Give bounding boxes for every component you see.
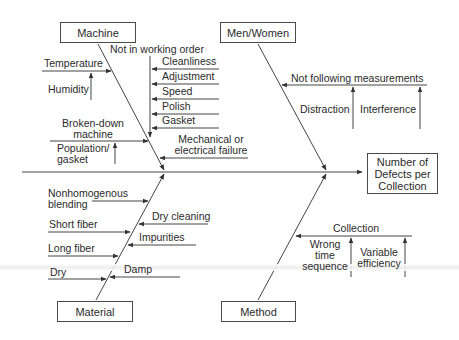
cause-nonhomogenous-blending: Nonhomogenous blending xyxy=(48,188,128,210)
cause-impurities: Impurities xyxy=(139,232,185,243)
cause-variable-efficiency: Variable efficiency xyxy=(355,247,403,269)
cause-dry-cleaning: Dry cleaning xyxy=(152,211,210,222)
cause-dry: Dry xyxy=(50,267,66,278)
effect-line-2: Defects per xyxy=(374,168,430,180)
category-men-women-box: Men/Women xyxy=(220,22,296,43)
cause-wrong-time-sequence: Wrong time sequence xyxy=(302,239,348,272)
cause-not-in-working-order: Not in working order xyxy=(110,44,204,55)
category-method-box: Method xyxy=(221,301,296,322)
cause-wrong-line-3: sequence xyxy=(302,261,348,272)
effect-box: Number of Defects per Collection xyxy=(367,153,438,194)
effect-line-1: Number of xyxy=(377,156,428,168)
cause-mechanical-electrical-failure: Mechanical or electrical failure xyxy=(170,134,252,156)
cause-long-fiber: Long fiber xyxy=(48,243,95,254)
cause-broken-down-machine: Broken-down machine xyxy=(58,118,128,140)
category-men-women-label: Men/Women xyxy=(227,27,289,39)
cause-distraction: Distraction xyxy=(300,104,350,115)
category-material-box: Material xyxy=(57,301,133,322)
category-machine-box: Machine xyxy=(60,22,136,43)
effect-line-3: Collection xyxy=(378,180,426,192)
cause-adjustment: Adjustment xyxy=(162,71,215,82)
cause-population-gasket: Population/ gasket xyxy=(57,143,110,165)
cause-interference: Interference xyxy=(360,104,416,115)
cause-nonhomog-line-2: blending xyxy=(48,199,128,210)
cause-humidity: Humidity xyxy=(48,84,89,95)
cause-not-following-measurements: Not following measurements xyxy=(291,73,423,84)
cause-damp: Damp xyxy=(124,264,152,275)
cause-cleanliness: Cleanliness xyxy=(162,56,216,67)
cause-speed: Speed xyxy=(162,86,192,97)
cause-broken-down-line-2: machine xyxy=(58,129,128,140)
cause-temperature: Temperature xyxy=(44,58,103,69)
cause-mech-line-2: electrical failure xyxy=(170,145,252,156)
cause-polish: Polish xyxy=(162,101,191,112)
cause-population-line-2: gasket xyxy=(57,154,110,165)
cause-short-fiber: Short fiber xyxy=(49,219,97,230)
category-material-label: Material xyxy=(75,306,114,318)
category-method-label: Method xyxy=(240,306,277,318)
cause-collection: Collection xyxy=(333,223,379,234)
cause-gasket: Gasket xyxy=(162,115,195,126)
category-machine-label: Machine xyxy=(77,27,119,39)
cause-variable-line-2: efficiency xyxy=(355,258,403,269)
